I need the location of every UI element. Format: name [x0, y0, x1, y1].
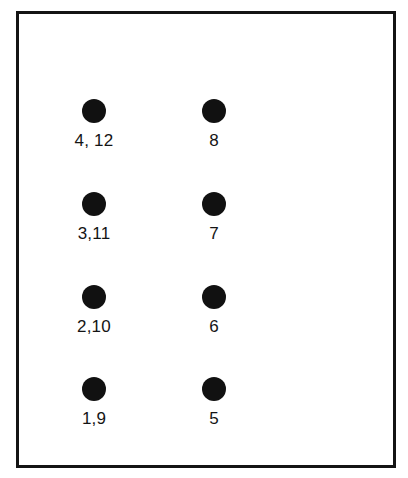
node-dot-icon	[82, 99, 106, 123]
node-dot-icon	[82, 377, 106, 401]
node-3-11[interactable]: 3,11	[49, 192, 139, 243]
node-5[interactable]: 5	[169, 377, 259, 428]
node-label: 4, 12	[49, 132, 139, 150]
node-dot-icon	[202, 192, 226, 216]
node-dot-icon	[82, 285, 106, 309]
node-8[interactable]: 8	[169, 99, 259, 150]
node-label: 8	[169, 132, 259, 150]
node-dot-icon	[202, 377, 226, 401]
diagram-frame: 4, 12 8 3,11 7 2,10 6 1,9	[16, 11, 396, 468]
node-7[interactable]: 7	[169, 192, 259, 243]
node-label: 3,11	[49, 225, 139, 243]
node-1-9[interactable]: 1,9	[49, 377, 139, 428]
node-label: 5	[169, 410, 259, 428]
node-2-10[interactable]: 2,10	[49, 285, 139, 336]
node-dot-icon	[202, 285, 226, 309]
node-label: 2,10	[49, 318, 139, 336]
node-dot-icon	[82, 192, 106, 216]
node-label: 6	[169, 318, 259, 336]
node-label: 7	[169, 225, 259, 243]
node-4-12[interactable]: 4, 12	[49, 99, 139, 150]
node-6[interactable]: 6	[169, 285, 259, 336]
node-dot-icon	[202, 99, 226, 123]
diagram-canvas: 4, 12 8 3,11 7 2,10 6 1,9	[0, 0, 408, 478]
node-label: 1,9	[49, 410, 139, 428]
